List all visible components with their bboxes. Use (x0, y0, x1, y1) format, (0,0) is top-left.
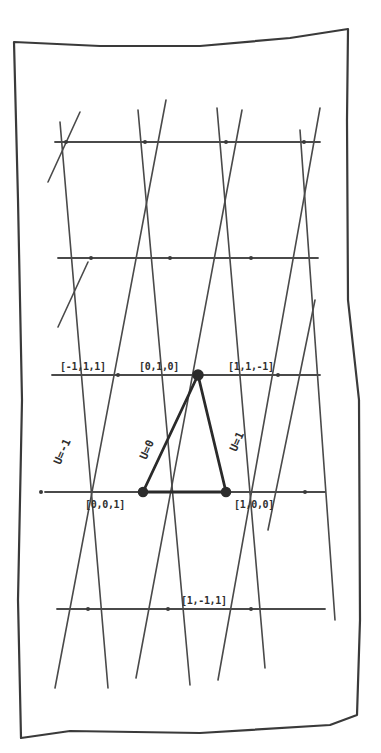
lattice-vertex (276, 373, 280, 377)
highlighted-triangle (143, 375, 226, 492)
lattice-vertex (166, 607, 170, 611)
horizontal-lattice-lines (45, 142, 325, 609)
coordinate-label: [1,0,0] (234, 500, 274, 510)
diagonal-line (55, 100, 166, 688)
lattice-vertex (39, 490, 43, 494)
lattice-vertex (249, 256, 253, 260)
lattice-vertex (64, 140, 68, 144)
lattice-vertex (89, 256, 93, 260)
lattice-vertex (86, 607, 90, 611)
highlighted-nodes (139, 370, 231, 497)
lattice-vertex (303, 490, 307, 494)
diagonal-line (217, 108, 265, 668)
node-100 (222, 488, 231, 497)
lattice-diagram (0, 0, 381, 753)
lattice-vertex (116, 373, 120, 377)
triangle-edge (198, 375, 226, 492)
diagonal-line (218, 108, 320, 680)
lattice-vertex (224, 140, 228, 144)
coordinate-label: [0,1,0] (139, 362, 179, 372)
coordinate-label: [0,0,1] (85, 500, 125, 510)
lattice-vertex (302, 140, 306, 144)
diagonal-line (60, 122, 108, 688)
coordinate-label: [1,1,-1] (228, 362, 274, 372)
lattice-vertex (143, 140, 147, 144)
lattice-vertex (168, 256, 172, 260)
coordinate-label: [-1,1,1] (60, 362, 106, 372)
node-010 (193, 370, 203, 380)
node-001 (139, 488, 148, 497)
coordinate-label: [1,-1,1] (181, 596, 227, 606)
diagonal-line (268, 300, 315, 530)
lattice-vertex (249, 607, 253, 611)
